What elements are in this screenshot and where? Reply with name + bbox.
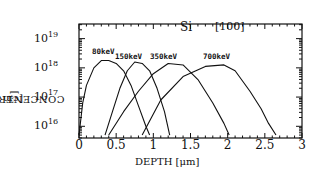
series-line-150kev <box>105 62 170 135</box>
series-line-350kev <box>109 63 229 135</box>
plot-frame <box>79 24 302 138</box>
series-line-700kev <box>142 65 276 135</box>
chart: CONCENTRATION [cm-3] 1019101810171016 00… <box>0 0 312 178</box>
series-line-80kev <box>79 61 150 136</box>
plot-area <box>0 0 312 178</box>
